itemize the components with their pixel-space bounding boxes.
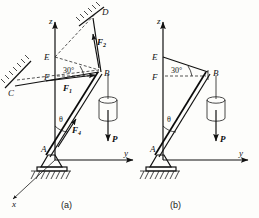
panel-a-angle-theta-label: θ [59,115,63,124]
panel-b-ground-hatch [140,171,180,179]
panel-a-force-F1-label: F 1 [62,83,72,94]
panel-a-point-E-label: E [43,52,50,62]
panel-a-angle-30-value: 30 [63,66,71,75]
panel-a-point-D-label: D [101,7,109,17]
panel-a-z-axis-label: z [48,16,53,26]
panel-b-point-A-label: A [149,144,156,154]
panel-b-angle-30-value: 30 [171,66,179,75]
panel-a-point-A-label: A [40,144,47,154]
panel-b-suspended-load [207,76,225,141]
statics-figure: z y x C [0,0,259,218]
panel-a-x-axis-label: x [11,199,16,209]
panel-b-angle-30-arc [188,66,192,76]
panel-a-point-B-label: B [104,68,110,78]
panel-a-dashed-ED [55,12,97,57]
panel-a-wall-D [76,2,104,26]
panel-a-point-C-label: C [8,88,15,98]
panel-a-suspended-load [99,74,117,141]
panel-b: z y E F B A 30° θ [140,16,248,210]
svg-text:4: 4 [77,130,81,136]
panel-a-x-axis [13,160,55,199]
panel-a-y-axis-label: y [123,148,128,158]
panel-b-caption: (b) [170,200,181,210]
panel-b-point-F-label: F [151,72,158,82]
panel-a-force-F2-label: F 2 [96,37,106,48]
svg-text:1: 1 [69,88,72,94]
panel-b-z-axis-label: z [156,16,161,26]
panel-b-angle-30-unit: ° [179,66,182,75]
svg-text:F: F [62,83,69,93]
panel-a-force-P-label: P [112,134,118,144]
panel-a-caption: (a) [61,200,72,210]
panel-a-angle-30-unit: ° [71,66,74,75]
panel-a-pin-support [31,155,71,179]
panel-b-force-P-label: P [220,134,226,144]
panel-a-dashed-EB [55,57,99,70]
panel-b-point-E-label: E [151,52,158,62]
panel-a-force-F4-label: F 4 [71,125,81,136]
svg-text:F: F [96,37,103,47]
panel-b-y-axis-label: y [238,148,243,158]
svg-text:F: F [71,125,78,135]
panel-b-pin-support [140,155,180,179]
panel-a-angle-30-label: 30° [63,66,74,75]
svg-text:2: 2 [102,42,106,48]
panel-b-angle-30-label: 30° [171,66,182,75]
panel-b-member-EB [163,57,208,72]
panel-a: z y x C [1,2,133,210]
panel-a-ground-hatch [31,171,71,179]
panel-b-angle-theta-label: θ [167,115,171,124]
panel-a-wall-C [1,55,31,88]
